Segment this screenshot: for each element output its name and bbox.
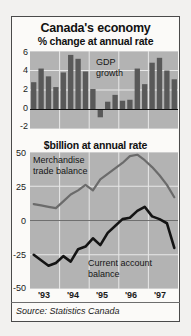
xtick-97: '97 bbox=[147, 290, 173, 300]
merchandise-annotation-line1: Merchandise bbox=[33, 155, 85, 166]
xtick-96: '96 bbox=[118, 290, 144, 300]
gdp-bar bbox=[149, 63, 154, 110]
gdp-bar bbox=[31, 82, 36, 109]
gdp-bar bbox=[98, 110, 103, 118]
top-chart-subtitle: % change at annual rate bbox=[11, 35, 180, 47]
gdp-bar bbox=[46, 76, 51, 109]
current-account-annotation-line1: Current account bbox=[88, 258, 152, 269]
gdp-bar bbox=[120, 101, 125, 110]
gdp-bar bbox=[68, 55, 73, 110]
gdp-annotation-line1: GDP bbox=[96, 57, 116, 68]
source-divider bbox=[11, 302, 180, 303]
top-ytick-0: 0 bbox=[6, 103, 28, 113]
chart-figure: Canada's economy % change at annual rate… bbox=[0, 0, 191, 336]
bottom-ytick-25: 25 bbox=[4, 182, 26, 192]
current-account-annotation-line2: balance bbox=[88, 269, 120, 280]
gdp-bar bbox=[112, 95, 117, 110]
gdp-bar bbox=[83, 71, 88, 109]
source-caption: Source: Statistics Canada bbox=[16, 306, 120, 316]
gdp-bar bbox=[38, 69, 43, 110]
top-ytick-6: 6 bbox=[6, 47, 28, 57]
xtick-94: '94 bbox=[60, 290, 86, 300]
bottom-chart-subtitle: $billion at annual rate bbox=[11, 139, 180, 151]
gdp-bar bbox=[157, 58, 162, 110]
gdp-bar bbox=[75, 59, 80, 110]
bottom-ytick-0: 0 bbox=[4, 216, 26, 226]
page-title: Canada's economy bbox=[11, 21, 180, 35]
top-ytick-neg2: -2 bbox=[6, 121, 28, 131]
gdp-bar bbox=[61, 72, 66, 109]
merchandise-annotation-line2: trade balance bbox=[33, 166, 88, 177]
xtick-95: '95 bbox=[89, 290, 115, 300]
current-account-balance-line bbox=[34, 207, 175, 266]
gdp-bar bbox=[90, 89, 95, 109]
gdp-bar bbox=[172, 79, 177, 109]
gdp-annotation-line2: growth bbox=[96, 68, 123, 79]
xtick-93: '93 bbox=[31, 290, 57, 300]
gdp-bar bbox=[53, 87, 58, 109]
gdp-bar bbox=[142, 84, 147, 109]
bottom-ytick-neg50: -50 bbox=[4, 283, 26, 293]
bottom-ytick-50: 50 bbox=[4, 148, 26, 158]
gdp-bar bbox=[135, 69, 140, 110]
gdp-bar bbox=[164, 71, 169, 110]
top-ytick-2: 2 bbox=[6, 84, 28, 94]
gdp-bar bbox=[105, 102, 110, 110]
gdp-bar bbox=[127, 100, 132, 110]
bottom-ytick-neg25: -25 bbox=[4, 250, 26, 260]
top-ytick-4: 4 bbox=[6, 65, 28, 75]
